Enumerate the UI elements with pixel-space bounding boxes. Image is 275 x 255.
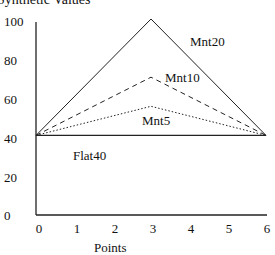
- series-label-flat40: Flat40: [73, 148, 106, 164]
- series-label-mnt10: Mnt10: [165, 70, 200, 86]
- series-label-mnt5: Mnt5: [142, 113, 170, 129]
- plot-area: [0, 0, 275, 255]
- series-label-mnt20: Mnt20: [190, 34, 225, 50]
